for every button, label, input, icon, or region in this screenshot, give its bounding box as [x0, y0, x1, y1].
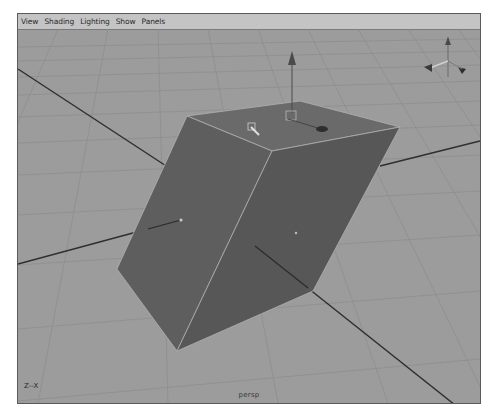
menu-lighting[interactable]: Lighting [80, 17, 110, 26]
view-axis-gizmo [424, 37, 466, 77]
viewport-panel[interactable]: View Shading Lighting Show Panels [17, 13, 481, 404]
menu-shading[interactable]: Shading [44, 17, 74, 26]
menu-show[interactable]: Show [116, 17, 136, 26]
panel-menubar: View Shading Lighting Show Panels [18, 14, 480, 30]
scene-canvas[interactable] [18, 29, 480, 403]
menu-view[interactable]: View [21, 17, 38, 26]
axis-indicator: Z--X [24, 382, 38, 390]
camera-label: persp [238, 391, 259, 399]
3d-viewport[interactable]: Z--X persp [18, 29, 480, 403]
menu-panels[interactable]: Panels [142, 17, 166, 26]
